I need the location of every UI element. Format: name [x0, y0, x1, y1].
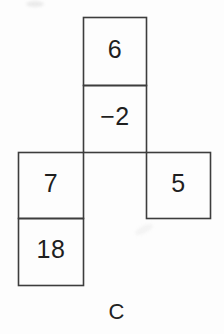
puzzle-figure: 6 −2 7 5 18 C [0, 0, 224, 334]
puzzle-cell-bottom-left: 18 [18, 218, 84, 286]
cell-value-left: 7 [44, 169, 58, 198]
puzzle-cell-left: 7 [18, 152, 84, 219]
cell-value-top: 6 [108, 35, 122, 64]
puzzle-cell-top: 6 [83, 17, 147, 86]
puzzle-cell-right: 5 [146, 152, 211, 219]
cell-value-bottom-left: 18 [37, 235, 66, 264]
cell-value-right: 5 [171, 169, 185, 198]
figure-label-text: C [109, 299, 125, 325]
figure-label: C [83, 299, 150, 325]
cell-value-middle: −2 [100, 102, 130, 131]
puzzle-cell-middle: −2 [83, 85, 147, 153]
